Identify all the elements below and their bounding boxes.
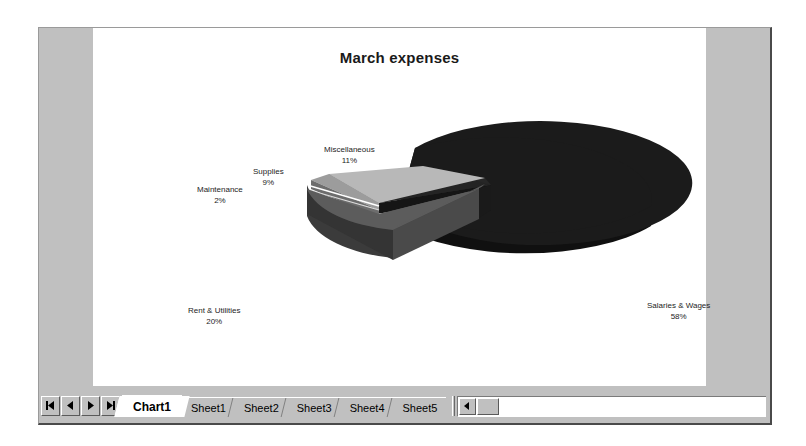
sheet-tab-chart1-label: Chart1 xyxy=(133,400,171,414)
sheet-tab-sheet2-label: Sheet2 xyxy=(244,402,279,414)
pie-label-rent-utilities[interactable]: Rent & Utilities 20% xyxy=(188,305,240,327)
pie-label-rent-utilities-name: Rent & Utilities xyxy=(188,306,240,315)
first-sheet-icon xyxy=(45,401,56,410)
pie-label-salaries-wages-pct: 58% xyxy=(647,311,710,322)
scrollbar-thumb[interactable] xyxy=(477,398,499,415)
pie-label-maintenance[interactable]: Maintenance 2% xyxy=(197,184,243,206)
pie-chart-svg xyxy=(93,28,706,386)
pie-chart-graphic[interactable] xyxy=(93,28,706,386)
sheet-nav-buttons xyxy=(41,396,121,416)
pie-label-miscellaneous-name: Miscellaneous xyxy=(324,145,375,154)
pie-label-maintenance-name: Maintenance xyxy=(197,185,243,194)
sheet-tab-sheet2[interactable]: Sheet2 xyxy=(235,397,288,417)
first-sheet-button[interactable] xyxy=(41,396,60,416)
excel-chart-window: March expenses xyxy=(38,27,772,425)
pie-label-supplies-name: Supplies xyxy=(253,167,284,176)
sheet-tab-sheet3[interactable]: Sheet3 xyxy=(288,397,341,417)
pie-label-salaries-wages-name: Salaries & Wages xyxy=(647,301,710,310)
screenshot-root: March expenses xyxy=(0,0,806,446)
horizontal-scrollbar[interactable] xyxy=(457,396,766,417)
next-sheet-icon xyxy=(85,401,96,410)
previous-sheet-button[interactable] xyxy=(61,396,80,416)
pie-label-salaries-wages[interactable]: Salaries & Wages 58% xyxy=(647,300,710,322)
tab-split-handle[interactable] xyxy=(452,396,455,416)
pie-label-miscellaneous-pct: 11% xyxy=(324,155,375,166)
sheet-tab-sheet4[interactable]: Sheet4 xyxy=(341,397,394,417)
sheet-tab-sheet1-label: Sheet1 xyxy=(191,402,226,414)
sheet-tabs: Chart1 Sheet1 Sheet2 Sheet3 Sheet4 Sheet… xyxy=(122,395,446,417)
pie-label-supplies[interactable]: Supplies 9% xyxy=(253,166,284,188)
sheet-tab-sheet4-label: Sheet4 xyxy=(350,402,385,414)
sheet-tab-sheet5-label: Sheet5 xyxy=(403,402,438,414)
sheet-tab-sheet3-label: Sheet3 xyxy=(297,402,332,414)
pie-label-maintenance-pct: 2% xyxy=(197,195,243,206)
scroll-left-button[interactable] xyxy=(459,398,476,415)
last-sheet-icon xyxy=(105,401,116,410)
pie-label-miscellaneous[interactable]: Miscellaneous 11% xyxy=(324,144,375,166)
chart-sheet-area[interactable]: March expenses xyxy=(93,28,706,386)
sheet-tab-sheet5[interactable]: Sheet5 xyxy=(394,397,447,417)
previous-sheet-icon xyxy=(65,401,76,410)
pie-label-supplies-pct: 9% xyxy=(253,177,284,188)
sheet-tab-sheet1[interactable]: Sheet1 xyxy=(182,397,235,417)
pie-label-rent-utilities-pct: 20% xyxy=(188,316,240,327)
sheet-tab-chart1[interactable]: Chart1 xyxy=(122,395,182,417)
arrow-left-icon xyxy=(463,402,472,410)
sheet-tab-bar: Chart1 Sheet1 Sheet2 Sheet3 Sheet4 Sheet… xyxy=(39,389,769,423)
next-sheet-button[interactable] xyxy=(81,396,100,416)
